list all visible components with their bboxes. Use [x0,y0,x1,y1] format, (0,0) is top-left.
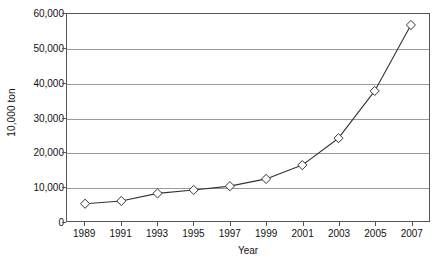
data-point-marker [189,185,198,194]
x-axis-tick-label: 1997 [219,228,241,239]
y-axis-tick-label: 20,000 [33,147,64,158]
y-axis-tick-label: 30,000 [33,112,64,123]
x-axis-tick-label: 1993 [146,228,168,239]
data-point-marker [334,134,343,143]
x-axis-tick-mark [375,222,376,226]
series-markers [81,20,416,208]
x-axis-tick-marks [66,222,430,227]
y-axis-tick-label: 40,000 [33,77,64,88]
x-axis-title: Year [66,245,430,256]
x-axis-tick-label: 2005 [364,228,386,239]
y-axis-tick-labels: 010,00020,00030,00040,00050,00060,000 [14,8,64,223]
data-point-marker [117,196,126,205]
x-axis-tick-mark [266,222,267,226]
data-point-marker [81,199,90,208]
y-axis-tick-label: 10,000 [33,182,64,193]
x-axis-tick-mark [339,222,340,226]
data-point-marker [298,161,307,170]
x-axis-tick-label: 1991 [109,228,131,239]
x-axis-tick-label: 2003 [328,228,350,239]
x-axis-tick-label: 2001 [291,228,313,239]
data-point-marker [406,20,415,29]
y-axis-tick-label: 60,000 [33,8,64,19]
data-point-marker [370,86,379,95]
plot-area [66,13,430,222]
x-axis-tick-mark [412,222,413,226]
x-axis-tick-mark [230,222,231,226]
series-line [85,25,411,204]
series-plot [67,14,429,221]
data-point-marker [225,182,234,191]
x-axis-tick-mark [303,222,304,226]
x-axis-tick-mark [84,222,85,226]
x-axis-tick-labels: 1989199119931995199719992001200320052007 [66,228,430,242]
x-axis-tick-mark [193,222,194,226]
x-axis-tick-label: 1999 [255,228,277,239]
x-axis-tick-label: 1995 [182,228,204,239]
x-axis-tick-label: 1989 [73,228,95,239]
data-point-marker [153,189,162,198]
line-chart: 10,000 ton 010,00020,00030,00040,00050,0… [0,0,439,265]
x-axis-title-label: Year [238,245,258,256]
x-axis-tick-label: 2007 [401,228,423,239]
data-point-marker [262,174,271,183]
x-axis-tick-mark [157,222,158,226]
y-axis-tick-label: 50,000 [33,42,64,53]
x-axis-tick-mark [121,222,122,226]
